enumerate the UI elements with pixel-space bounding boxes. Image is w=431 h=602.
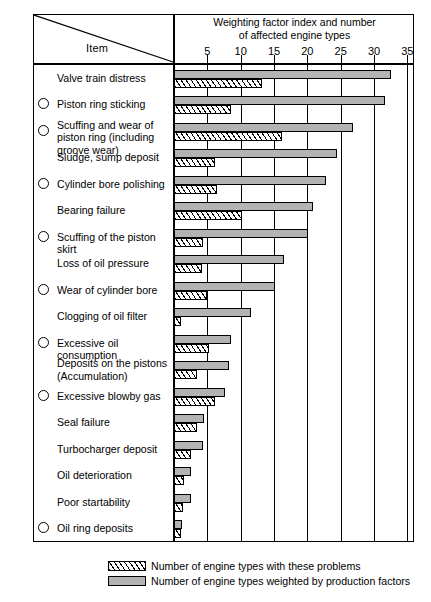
- bar-count: [174, 185, 217, 194]
- x-tick-mark-5: [207, 55, 208, 63]
- row-label: Poor startability: [57, 496, 173, 509]
- bar-weighted: [174, 361, 229, 370]
- diagonal-line-icon: [34, 15, 174, 63]
- bar-count: [174, 503, 183, 512]
- row-label: Oil deterioration: [57, 469, 173, 482]
- row-label: Cylinder bore polishing: [57, 178, 173, 191]
- row-marker-circle-icon: [38, 98, 49, 109]
- bar-count: [174, 370, 197, 379]
- bar-weighted: [174, 202, 313, 211]
- x-tick-mark-20: [307, 55, 308, 63]
- row-label: Seal failure: [57, 416, 173, 429]
- chart-frame: Item Weighting factor index and number o…: [33, 14, 414, 542]
- bar-weighted: [174, 414, 204, 423]
- x-axis-tick-labels: 5101520253035: [174, 45, 415, 61]
- bar-count: [174, 450, 191, 459]
- row-label: Wear of cylinder bore: [57, 284, 173, 297]
- x-tick-mark-30: [374, 55, 375, 63]
- bar-count: [174, 529, 181, 538]
- row-label: Oil ring deposits: [57, 522, 173, 535]
- row-label: Turbocharger deposit: [57, 443, 173, 456]
- bar-weighted: [174, 441, 203, 450]
- row-label: Clogging of oil filter: [57, 310, 173, 323]
- bar-count: [174, 158, 215, 167]
- row-label: Deposits on the pistons (Accumulation): [57, 357, 173, 382]
- bar-weighted: [174, 149, 337, 158]
- legend-item-gray: Number of engine types weighted by produ…: [108, 573, 418, 588]
- item-label-column: Valve train distressPiston ring sticking…: [34, 65, 173, 542]
- header-diagonal-cell: Item: [34, 15, 174, 63]
- row-marker-circle-icon: [38, 390, 49, 401]
- bar-count: [174, 317, 181, 326]
- bar-weighted: [174, 388, 225, 397]
- row-label: Bearing failure: [57, 204, 173, 217]
- row-marker-circle-icon: [38, 337, 49, 348]
- bar-count: [174, 238, 203, 247]
- row-label: Scuffing of the piston skirt: [57, 231, 173, 256]
- bar-weighted: [174, 335, 231, 344]
- bar-weighted: [174, 520, 182, 529]
- row-label: Piston ring sticking: [57, 98, 173, 111]
- bar-count: [174, 105, 231, 114]
- legend-label-hatch: Number of engine types with these proble…: [151, 560, 361, 572]
- row-marker-circle-icon: [38, 231, 49, 242]
- chart-legend: Number of engine types with these proble…: [108, 558, 418, 588]
- bar-weighted: [174, 255, 284, 264]
- row-marker-circle-icon: [38, 284, 49, 295]
- legend-item-hatch: Number of engine types with these proble…: [108, 558, 418, 573]
- x-tick-mark-10: [241, 55, 242, 63]
- bar-count: [174, 397, 215, 406]
- x-tick-mark-15: [274, 55, 275, 63]
- axis-title: Weighting factor index and number of aff…: [175, 16, 414, 41]
- bar-count: [174, 211, 242, 220]
- bar-count: [174, 476, 184, 485]
- row-label: Valve train distress: [57, 72, 173, 85]
- gridline-30: [374, 65, 375, 542]
- gridline-35: [407, 65, 408, 542]
- row-label: Sludge, sump deposit: [57, 151, 173, 164]
- bar-weighted: [174, 70, 391, 79]
- row-marker-circle-icon: [38, 178, 49, 189]
- legend-swatch-hatch-icon: [108, 561, 146, 571]
- gridline-25: [341, 65, 342, 542]
- chart-page: Item Weighting factor index and number o…: [0, 0, 431, 602]
- row-label: Loss of oil pressure: [57, 257, 173, 270]
- bar-weighted: [174, 308, 251, 317]
- bar-weighted: [174, 467, 191, 476]
- bar-weighted: [174, 123, 353, 132]
- bar-weighted: [174, 282, 275, 291]
- bar-count: [174, 264, 202, 273]
- bar-weighted: [174, 96, 385, 105]
- plot-area: [174, 65, 414, 542]
- bar-count: [174, 423, 197, 432]
- x-tick-mark-35: [407, 55, 408, 63]
- legend-swatch-gray-icon: [108, 576, 146, 586]
- bar-count: [174, 79, 262, 88]
- row-label: Excessive blowby gas: [57, 390, 173, 403]
- bar-count: [174, 344, 209, 353]
- bar-count: [174, 132, 282, 141]
- bar-weighted: [174, 494, 191, 503]
- axis-title-line-1: Weighting factor index and number: [175, 16, 414, 29]
- axis-title-line-2: of affected engine types: [175, 29, 414, 42]
- chart-header: Item Weighting factor index and number o…: [34, 15, 413, 63]
- bar-count: [174, 291, 207, 300]
- row-marker-circle-icon: [38, 125, 49, 136]
- legend-label-gray: Number of engine types weighted by produ…: [151, 575, 410, 587]
- x-tick-mark-25: [341, 55, 342, 63]
- bar-weighted: [174, 176, 326, 185]
- bar-weighted: [174, 229, 308, 238]
- item-column-header: Item: [34, 42, 160, 54]
- row-marker-circle-icon: [38, 522, 49, 533]
- gridline-20: [307, 65, 308, 542]
